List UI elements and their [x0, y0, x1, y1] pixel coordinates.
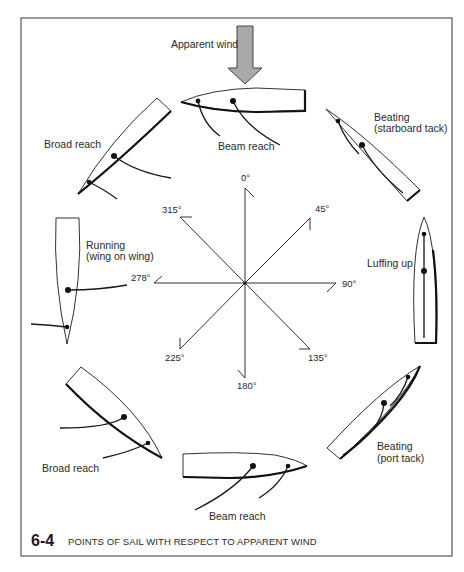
beam-reach-top-label: Beam reach: [218, 140, 275, 152]
degree-90: 90°: [342, 278, 357, 289]
running-label-2: (wing on wing): [86, 250, 154, 262]
degree-135: 135°: [308, 352, 328, 363]
points-of-sail-diagram: Apparent wind Beam reach Beating (starbo…: [0, 0, 464, 572]
broad-reach-bottom-label: Broad reach: [42, 462, 99, 474]
degree-180: 180°: [237, 380, 257, 391]
figure-number: 6-4: [31, 532, 54, 549]
beating-starboard-label-2: (starboard tack): [374, 122, 448, 134]
figure-caption: POINTS OF SAIL WITH RESPECT TO APPARENT …: [68, 536, 317, 547]
degree-0: 0°: [241, 172, 250, 183]
degree-225: 225°: [165, 352, 185, 363]
degree-315: 315°: [162, 204, 182, 215]
broad-reach-top-label: Broad reach: [44, 138, 101, 150]
apparent-wind-label: Apparent wind: [171, 38, 238, 50]
degree-278: 278°: [131, 272, 151, 283]
beating-port-label-2: (port tack): [377, 452, 424, 464]
luffing-up-label: Luffing up: [367, 257, 413, 269]
beam-reach-bottom-label: Beam reach: [209, 510, 266, 522]
beating-port-label-1: Beating: [377, 440, 413, 452]
degree-45: 45°: [315, 203, 330, 214]
